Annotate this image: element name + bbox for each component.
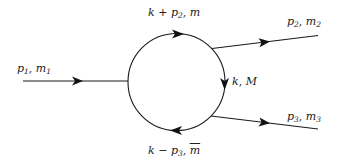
label-loop-momentum: k — [148, 144, 155, 157]
label-loop-momentum: k — [232, 75, 239, 88]
loop-bottom-label: k − p3, m — [148, 145, 200, 160]
label-sep: , — [299, 15, 303, 28]
label-mass: m — [306, 110, 316, 123]
label-mass: M — [246, 75, 257, 88]
label-mass: m — [190, 6, 200, 19]
label-index: 2 — [316, 20, 321, 29]
outgoing-top-label: p2, m2 — [287, 16, 321, 31]
incoming-label: p1, m1 — [17, 63, 51, 78]
label-sep: , — [183, 6, 187, 19]
loop-circle — [128, 34, 225, 131]
label-operator: − — [158, 144, 167, 157]
label-sep: , — [183, 144, 187, 157]
label-momentum: p — [17, 62, 24, 75]
label-loop-momentum: k — [148, 6, 155, 19]
label-momentum: p — [287, 15, 294, 28]
label-operator: + — [158, 6, 167, 19]
outgoing-bottom-label: p3, m3 — [287, 111, 321, 126]
label-momentum: p — [287, 110, 294, 123]
label-momentum: p — [171, 144, 178, 157]
label-mass-bar: m — [190, 144, 200, 157]
label-index: 1 — [46, 67, 51, 76]
label-sep: , — [29, 62, 33, 75]
label-sep: , — [299, 110, 303, 123]
label-mass: m — [306, 15, 316, 28]
loop-right-label: k, M — [232, 76, 257, 88]
label-mass: m — [36, 62, 46, 75]
label-sep: , — [239, 75, 243, 88]
label-momentum: p — [171, 6, 178, 19]
label-index: 3 — [316, 115, 321, 124]
loop-top-label: k + p2, m — [148, 7, 200, 22]
